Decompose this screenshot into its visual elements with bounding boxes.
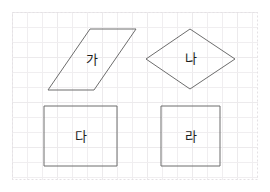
figure-canvas: 가나다라 — [0, 0, 270, 192]
shape-na[interactable]: 나 — [146, 29, 235, 89]
shape-ga[interactable]: 가 — [48, 29, 136, 90]
shape-na-label: 나 — [185, 51, 197, 66]
grid-area-border — [13, 13, 258, 180]
geometry-figure-svg: 가나다라 — [0, 0, 270, 192]
shape-ra-label: 라 — [185, 129, 197, 144]
shape-da[interactable]: 다 — [44, 106, 117, 166]
grid-background — [12, 12, 258, 180]
shape-ga-label: 가 — [86, 52, 98, 67]
shape-ra[interactable]: 라 — [161, 106, 220, 166]
shape-da-label: 다 — [75, 129, 87, 144]
